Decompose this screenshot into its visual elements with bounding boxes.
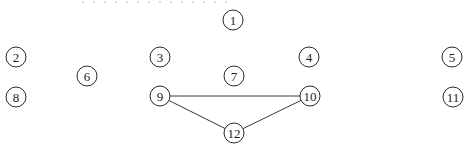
node-label: 5	[449, 50, 456, 65]
node-6: 6	[77, 66, 97, 86]
nodes-group: 123456789101112	[6, 10, 463, 143]
node-label: 6	[84, 69, 91, 84]
node-5: 5	[442, 47, 462, 67]
node-label: 10	[304, 89, 317, 104]
node-10: 10	[300, 86, 320, 106]
node-label: 2	[13, 50, 20, 65]
node-8: 8	[6, 87, 26, 107]
node-label: 4	[306, 50, 313, 65]
node-1: 1	[223, 10, 243, 30]
node-label: 12	[228, 126, 241, 141]
node-label: 9	[157, 89, 164, 104]
node-label: 8	[13, 90, 20, 105]
node-9: 9	[150, 86, 170, 106]
node-12: 12	[224, 123, 244, 143]
node-2: 2	[6, 47, 26, 67]
node-4: 4	[299, 47, 319, 67]
edge-10-12	[243, 100, 301, 128]
node-label: 3	[157, 50, 164, 65]
node-label: 11	[447, 90, 460, 105]
node-label: 1	[230, 13, 237, 28]
graph-diagram: 123456789101112	[0, 0, 470, 151]
node-3: 3	[150, 47, 170, 67]
node-7: 7	[224, 66, 244, 86]
node-11: 11	[443, 87, 463, 107]
edge-9-12	[169, 100, 225, 128]
node-label: 7	[231, 69, 238, 84]
